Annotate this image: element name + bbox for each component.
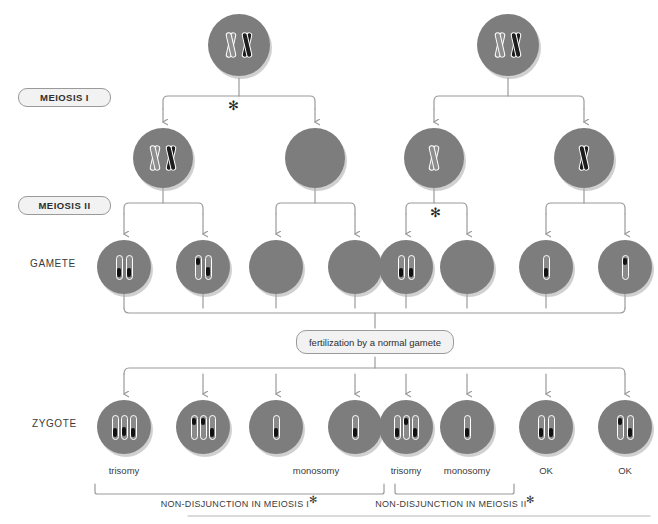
zygote-6 — [440, 400, 494, 454]
zygote-8 — [598, 400, 652, 454]
chromosome-x-dark — [241, 32, 254, 58]
chromosome-x-dark — [510, 32, 523, 58]
chromatid-dark — [195, 255, 202, 280]
group-caption-meiosis-i-text: NON-DISJUNCTION IN MEIOSIS I — [161, 499, 309, 509]
row-label-zygote: ZYGOTE — [32, 418, 77, 429]
meiosis-i-cell-3 — [404, 128, 464, 188]
chromatid-light — [464, 415, 471, 440]
chromatid-dark — [617, 415, 624, 440]
chromosome-x-light — [225, 32, 238, 58]
chromosome-group — [477, 14, 539, 76]
meiosis-i-cell-2-empty — [285, 128, 345, 188]
chromatid-light — [273, 415, 280, 440]
group-caption-meiosis-ii-text: NON-DISJUNCTION IN MEIOSIS II — [375, 499, 526, 509]
chromosome-x-light — [428, 145, 441, 171]
chromatid-light — [538, 415, 545, 440]
chromatid-dark — [622, 255, 629, 280]
group-caption-meiosis-ii-star: ✻ — [526, 494, 534, 505]
parent-cell-left — [208, 14, 270, 76]
fertilization-box: fertilization by a normal gamete — [296, 330, 454, 354]
chromatid-dark — [205, 255, 212, 280]
chromatid-group — [328, 400, 382, 454]
chromosome-group — [208, 14, 270, 76]
outcome-label-5: OK — [516, 465, 576, 476]
chromosome-group — [404, 128, 464, 188]
gamete-8 — [598, 240, 652, 294]
outcome-label-4: monosomy — [422, 465, 512, 476]
chromatid-light — [412, 415, 419, 440]
chromatid-dark — [191, 415, 198, 440]
chromosome-group — [133, 128, 193, 188]
zygote-5 — [379, 400, 433, 454]
chromatid-light — [209, 415, 216, 440]
zygote-1 — [97, 400, 151, 454]
gamete-1 — [97, 240, 151, 294]
zygote-4 — [328, 400, 382, 454]
nondisjunction-star-meiosis-ii: ✻ — [430, 206, 441, 219]
chromatid-light — [408, 255, 415, 280]
chromatid-light — [394, 415, 401, 440]
chromatid-group — [598, 400, 652, 454]
chromatid-dark — [403, 415, 410, 440]
chromosome-x-dark — [578, 145, 591, 171]
chromatid-dark — [121, 415, 128, 440]
chromatid-group — [379, 240, 433, 294]
chromosome-x-dark — [165, 145, 178, 171]
chromatid-light — [548, 415, 555, 440]
zygote-2 — [176, 400, 230, 454]
zygote-3 — [249, 400, 303, 454]
chromatid-group — [249, 400, 303, 454]
row-label-gamete: GAMETE — [30, 258, 76, 269]
chromatid-group — [97, 240, 151, 294]
chromosome-x-light — [149, 145, 162, 171]
chromatid-dark — [200, 415, 207, 440]
group-caption-meiosis-ii: NON-DISJUNCTION IN MEIOSIS II✻ — [305, 499, 605, 509]
outcome-label-6: OK — [595, 465, 655, 476]
chromatid-light — [116, 255, 123, 280]
chromatid-light — [130, 415, 137, 440]
gamete-5 — [379, 240, 433, 294]
outcome-label-2: monosomy — [271, 465, 361, 476]
chromatid-group — [519, 240, 573, 294]
chromatid-light — [112, 415, 119, 440]
chromatid-group — [97, 400, 151, 454]
gamete-3-empty — [249, 240, 303, 294]
gamete-2 — [176, 240, 230, 294]
nondisjunction-star-meiosis-i: ✻ — [228, 99, 239, 112]
gamete-6-empty — [440, 240, 494, 294]
gamete-7 — [519, 240, 573, 294]
chromatid-light — [627, 415, 634, 440]
stage-label-meiosis-ii: MEIOSIS II — [18, 196, 111, 215]
outcome-label-1: trisomy — [84, 465, 164, 476]
chromatid-light — [398, 255, 405, 280]
chromatid-light — [126, 255, 133, 280]
parent-cell-right — [477, 14, 539, 76]
chromatid-group — [176, 400, 230, 454]
chromosome-x-light — [494, 32, 507, 58]
meiosis-i-cell-1 — [133, 128, 193, 188]
stage-label-meiosis-i: MEIOSIS I — [18, 88, 111, 107]
chromatid-light — [352, 415, 359, 440]
chromosome-group — [554, 128, 614, 188]
meiosis-nondisjunction-diagram: MEIOSIS I MEIOSIS II GAMETE ZYGOTE ✻ ✻ — [0, 0, 658, 524]
meiosis-i-cell-4 — [554, 128, 614, 188]
chromatid-group — [176, 240, 230, 294]
chromatid-group — [519, 400, 573, 454]
zygote-7 — [519, 400, 573, 454]
chromatid-group — [379, 400, 433, 454]
chromatid-group — [598, 240, 652, 294]
chromatid-group — [440, 400, 494, 454]
gamete-4-empty — [328, 240, 382, 294]
chromatid-light — [543, 255, 550, 280]
